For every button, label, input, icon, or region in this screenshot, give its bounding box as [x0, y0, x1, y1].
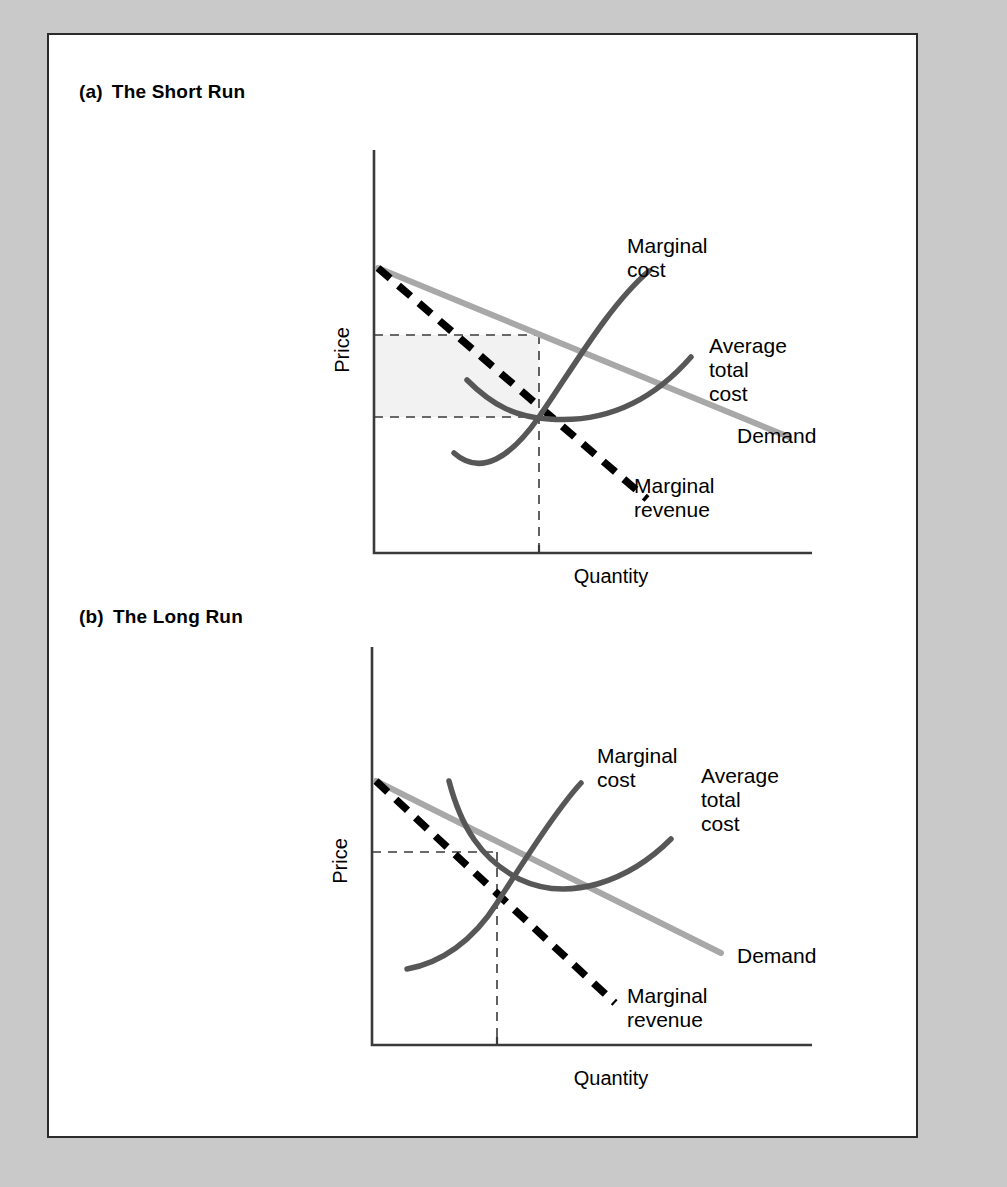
- chart-long-run-svg: Price Quantity Marginal cost Average tot…: [49, 631, 916, 1136]
- panel-a-title-text: The Short Run: [112, 81, 245, 102]
- chart-short-run: Price Quantity Marginal cost Average tot…: [49, 105, 916, 605]
- average-total-cost-label-line1: Average: [709, 334, 787, 357]
- marginal-cost-label-line2: cost: [627, 258, 666, 281]
- demand-curve: [376, 781, 721, 953]
- y-axis-label: Price: [331, 327, 353, 373]
- panel-a-tag: (a): [79, 81, 103, 102]
- panel-b-title-text: The Long Run: [113, 606, 243, 627]
- marginal-revenue-label-line2: revenue: [634, 498, 710, 521]
- marginal-cost-label-line2: cost: [597, 768, 636, 791]
- chart-long-run: Price Quantity Marginal cost Average tot…: [49, 631, 916, 1136]
- average-total-cost-label-line3: cost: [701, 812, 740, 835]
- average-total-cost-label-line3: cost: [709, 382, 748, 405]
- x-axis-label: Quantity: [574, 565, 648, 587]
- demand-label: Demand: [737, 424, 816, 447]
- panel-b-title: (b)The Long Run: [79, 606, 243, 628]
- marginal-cost-label-line1: Marginal: [627, 234, 708, 257]
- y-axis-label: Price: [329, 838, 351, 884]
- figure-panel: (a)The Short Run Price Quantity: [47, 33, 918, 1138]
- chart-short-run-svg: Price Quantity Marginal cost Average tot…: [49, 105, 916, 605]
- average-total-cost-label-line1: Average: [701, 764, 779, 787]
- average-total-cost-label-line2: total: [701, 788, 741, 811]
- panel-b-tag: (b): [79, 606, 104, 627]
- x-axis-label: Quantity: [574, 1067, 648, 1089]
- profit-box: [374, 335, 539, 417]
- average-total-cost-label-line2: total: [709, 358, 749, 381]
- marginal-revenue-label-line1: Marginal: [634, 474, 715, 497]
- marginal-revenue-label-line2: revenue: [627, 1008, 703, 1031]
- demand-label: Demand: [737, 944, 816, 967]
- marginal-revenue-label-line1: Marginal: [627, 984, 708, 1007]
- marginal-cost-label-line1: Marginal: [597, 744, 678, 767]
- panel-a-title: (a)The Short Run: [79, 81, 245, 103]
